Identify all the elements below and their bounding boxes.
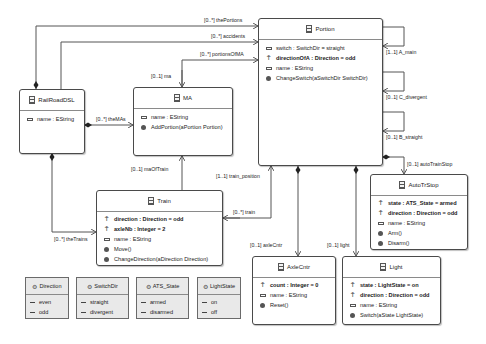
pin-attribute-icon: ⍑ [376,209,385,218]
label-autoTrainStop: [0..1] autoTrainStop [407,161,452,167]
attribute-row[interactable]: name : EString [102,234,217,244]
enum-literal[interactable]: off [202,307,236,317]
operation-row[interactable]: ChangeSwitch(aSwitchDir SwitchDir) [264,73,377,83]
pin-attribute-icon: ⍑ [102,215,111,224]
literal-icon [30,312,35,313]
enum-icon: ⚙ [146,283,151,290]
attribute-icon [266,47,272,50]
operation-row[interactable]: Switch(aState LightState) [348,310,435,320]
enum-direction[interactable]: ⚙Direction even odd [25,277,69,319]
edge-B-straight [382,112,404,131]
edge-accidents [61,42,258,89]
label-portionsOfMA: [0..*] portionsOfMA [200,51,244,57]
label-thePortions: [0..*] thePortions [204,17,242,23]
class-header: Light [343,257,440,278]
attribute-icon [141,116,147,119]
class-icon [399,181,405,189]
class-axlecntr[interactable]: AxleCntr ⍑count : Integer = 0 name : ESt… [252,256,336,325]
label-C-divergent: [0..1] C_divergent [386,94,427,100]
operation-icon [104,257,109,262]
attribute-icon [260,294,266,297]
enum-switchdir[interactable]: ⚙SwitchDir straight divergent [76,277,129,319]
class-railroaddsl[interactable]: RailRoadDSL name : EString [19,89,85,154]
attribute-row[interactable]: ⍑direction : Direction = odd [348,290,435,300]
enum-ats-state[interactable]: ⚙ATS_State armed disarmed [136,277,189,319]
enum-literal[interactable]: even [30,297,64,307]
attribute-row[interactable]: ⍑count : Integer = 0 [258,280,330,290]
enum-literal[interactable]: armed [141,297,184,307]
attribute-row[interactable]: ⍑state : ATS_State = armed [376,198,462,208]
attribute-row[interactable]: name : EString [139,112,227,122]
label-accidents: [0..*] accidents [211,33,245,39]
label-train-position: [1..1] train_position [216,173,260,179]
label-axleCntr: [0..1] axleCntr [250,242,282,248]
enum-literal[interactable]: straight [81,297,124,307]
enum-literal[interactable]: odd [30,307,64,317]
attribute-row[interactable]: name : EString [264,63,377,73]
attribute-icon [350,304,356,307]
attribute-row[interactable]: name : EString [376,218,462,228]
enum-lightstate[interactable]: ⚙LightState on off [197,277,241,319]
operation-icon [260,303,265,308]
literal-icon [141,302,146,303]
class-icon [278,263,284,271]
attribute-row[interactable]: name : EString [258,290,330,300]
label-ma: [0..1] ma [151,73,171,79]
operation-icon [141,125,146,130]
operation-row[interactable]: AddPortion(aPortion Portion) [139,122,227,132]
label-train: [0..*] train [233,209,255,215]
class-icon [380,263,386,271]
label-light: [0..1] light [327,242,350,248]
class-header: RailRoadDSL [20,90,84,111]
class-portion[interactable]: Portion switch : SwitchDir = straight ⍑d… [258,18,383,166]
operation-icon [350,313,355,318]
label-A-main: [1..1] A_main [386,49,416,55]
edge-autoTrainStop [382,157,404,174]
class-icon [29,96,35,104]
attribute-icon [27,118,33,121]
operation-row[interactable]: Move() [102,244,217,254]
enum-literal[interactable]: divergent [81,307,124,317]
enum-literal[interactable]: disarmed [141,307,184,317]
literal-icon [30,302,35,303]
pin-attribute-icon: ⍑ [348,281,357,290]
pin-attribute-icon: ⍑ [348,291,357,300]
literal-icon [81,312,86,313]
class-header: AxleCntr [253,257,335,278]
class-header: Train [97,191,222,212]
attribute-row[interactable]: ⍑axleNb : Integer = 2 [102,224,217,234]
attribute-row[interactable]: ⍑state : LightState = on [348,280,435,290]
pin-attribute-icon: ⍑ [102,225,111,234]
class-ma[interactable]: MA name : EString AddPortion(aPortion Po… [133,87,233,156]
class-icon [174,94,180,102]
attribute-row[interactable]: ⍑direction : Direction = odd [376,208,462,218]
label-theMAs: [0..*] theMAs [96,116,126,122]
attribute-icon [378,222,384,225]
attribute-row[interactable]: ⍑direction : Direction = odd [102,214,217,224]
attribute-row[interactable]: ⍑directionOfA : Direction = odd [264,53,377,63]
label-maOfTrain: [0..1] maOfTrain [131,166,168,172]
pin-attribute-icon: ⍑ [258,281,267,290]
class-icon [148,197,154,205]
class-autotrstop[interactable]: AutoTrStop ⍑state : ATS_State = armed ⍑d… [370,174,468,250]
operation-icon [378,231,383,236]
operation-row[interactable]: Reset() [258,300,330,310]
class-light[interactable]: Light ⍑state : LightState = on ⍑directio… [342,256,441,325]
class-train[interactable]: Train ⍑direction : Direction = odd ⍑axle… [96,190,223,266]
enum-literal[interactable]: on [202,297,236,307]
attribute-row[interactable]: name : EString [25,114,79,124]
operation-row[interactable]: Disarm() [376,238,462,248]
class-header: Portion [259,19,382,40]
pin-attribute-icon: ⍑ [264,54,273,63]
label-theTrains: [0..*] theTrains [54,236,88,242]
operation-row[interactable]: ChangeDirection(aDirection Direction) [102,254,217,264]
attribute-row[interactable]: switch : SwitchDir = straight [264,43,377,53]
enum-icon: ⚙ [203,283,208,290]
literal-icon [141,312,146,313]
operation-icon [266,76,271,81]
enum-icon: ⚙ [32,283,37,290]
edge-A-main [382,27,404,46]
literal-icon [202,312,207,313]
attribute-row[interactable]: name : EString [348,300,435,310]
operation-row[interactable]: Arm() [376,228,462,238]
